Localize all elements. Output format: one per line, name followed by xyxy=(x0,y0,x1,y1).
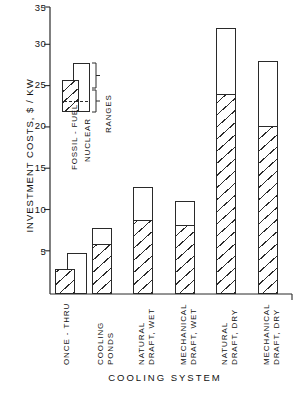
x-tick-label-mechanical-draft-dry: MECHANICAL DRAFT, DRY xyxy=(262,304,282,365)
bar-fossil-once-thru xyxy=(55,269,75,294)
bar-fossil-natural-draft-dry xyxy=(216,94,236,294)
x-tick-line: ONCE - THRU xyxy=(62,303,72,365)
x-tick-label-natural-draft-wet: NATURAL DRAFT, WET xyxy=(137,308,157,365)
x-tick-line: DRAFT, DRY xyxy=(230,309,240,365)
y-tick-label-30: 30 xyxy=(20,38,46,49)
x-tick-line: MECHANICAL xyxy=(179,304,189,365)
x-tick-line: DRAFT, DRY xyxy=(272,304,282,365)
x-tick-line: NATURAL xyxy=(220,309,230,365)
x-tick-label-cooling-ponds: COOLING PONDS xyxy=(96,322,116,365)
legend-label-nuclear: NUCLEAR xyxy=(83,118,92,162)
chart-figure: INVESTMENT COSTS, $ / KW 35 30 25 20 15 … xyxy=(0,0,307,397)
y-tick-label-15: 15 xyxy=(20,162,46,173)
x-tick-label-natural-draft-dry: NATURAL DRAFT, DRY xyxy=(220,309,240,365)
x-tick-line: PONDS xyxy=(106,322,116,365)
x-axis-title: COOLING SYSTEM xyxy=(55,372,275,383)
y-tick-label-20: 20 xyxy=(20,120,46,131)
legend-label-fossil-fuel: FOSSIL - FUEL xyxy=(70,104,79,170)
bar-fossil-natural-draft-wet xyxy=(133,220,153,294)
legend-nuclear-range-marker xyxy=(75,101,88,102)
y-axis-title: INVESTMENT COSTS, $ / KW xyxy=(24,31,35,281)
y-tick-label-5: 5 xyxy=(20,246,46,257)
x-tick-line: MECHANICAL xyxy=(262,304,272,365)
y-tick-label-25: 25 xyxy=(20,79,46,90)
bar-fossil-cooling-ponds xyxy=(92,244,112,294)
bar-fossil-mechanical-draft-wet xyxy=(175,225,195,294)
y-tick-label-10: 10 xyxy=(20,204,46,215)
x-tick-line: DRAFT, WET xyxy=(189,304,199,365)
x-tick-line: DRAFT, WET xyxy=(147,308,157,365)
y-tick-label-35: 35 xyxy=(20,2,46,13)
x-tick-label-once-thru: ONCE - THRU xyxy=(62,303,72,365)
x-tick-line: COOLING xyxy=(96,322,106,365)
x-tick-label-mechanical-draft-wet: MECHANICAL DRAFT, WET xyxy=(179,304,199,365)
x-tick-line: NATURAL xyxy=(137,308,147,365)
legend-label-ranges: RANGES xyxy=(104,94,113,133)
bar-fossil-mechanical-draft-dry xyxy=(258,126,278,294)
